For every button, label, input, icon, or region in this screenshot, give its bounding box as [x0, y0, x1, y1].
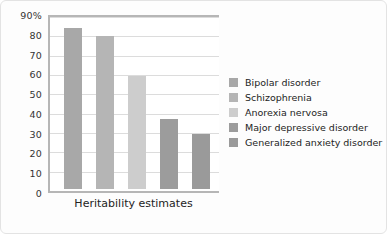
legend-swatch-icon — [229, 138, 238, 147]
legend-item[interactable]: Generalized anxiety disorder — [229, 135, 382, 150]
bar — [160, 119, 178, 189]
legend-item[interactable]: Anorexia nervosa — [229, 105, 382, 120]
y-axis-tick-label: 80 — [30, 29, 43, 40]
bar — [96, 36, 114, 189]
legend-swatch-icon — [229, 93, 238, 102]
legend-label: Anorexia nervosa — [245, 107, 328, 118]
bar-slot — [90, 19, 119, 189]
plot-wrapper: 90%80706050403020100 — [48, 15, 219, 193]
y-axis-tick-label: 50 — [30, 89, 43, 100]
plot-area — [48, 15, 219, 193]
bar — [192, 134, 210, 189]
legend-item[interactable]: Bipolar disorder — [229, 75, 382, 90]
x-axis-label: Heritability estimates — [48, 197, 219, 210]
bar — [64, 28, 82, 189]
y-axis-tick-label: 0 — [36, 188, 42, 199]
legend-swatch-icon — [229, 78, 238, 87]
bar-slot — [187, 19, 216, 189]
bar — [128, 76, 146, 189]
legend-swatch-icon — [229, 108, 238, 117]
legend-swatch-icon — [229, 123, 238, 132]
gridline — [50, 17, 219, 18]
y-axis-tick-label: 90% — [20, 10, 42, 21]
legend-item[interactable]: Major depressive disorder — [229, 120, 382, 135]
legend-label: Bipolar disorder — [245, 77, 320, 88]
y-axis-tick-label: 20 — [30, 148, 43, 159]
legend-label: Generalized anxiety disorder — [245, 137, 382, 148]
bar-slot — [155, 19, 184, 189]
y-axis-tick-label: 40 — [30, 108, 43, 119]
bar-slot — [122, 19, 151, 189]
legend-item[interactable]: Schizophrenia — [229, 90, 382, 105]
y-axis-tick-label: 70 — [30, 49, 43, 60]
chart-legend: Bipolar disorderSchizophreniaAnorexia ne… — [229, 75, 382, 150]
bar-series — [52, 19, 219, 189]
y-axis-tick-label: 30 — [30, 128, 43, 139]
chart-figure: 90%80706050403020100 Heritability estima… — [0, 0, 387, 234]
bar-slot — [58, 19, 87, 189]
y-axis-tick-label: 10 — [30, 168, 43, 179]
legend-label: Major depressive disorder — [245, 122, 368, 133]
legend-label: Schizophrenia — [245, 92, 312, 103]
y-axis-tick-label: 60 — [30, 69, 43, 80]
